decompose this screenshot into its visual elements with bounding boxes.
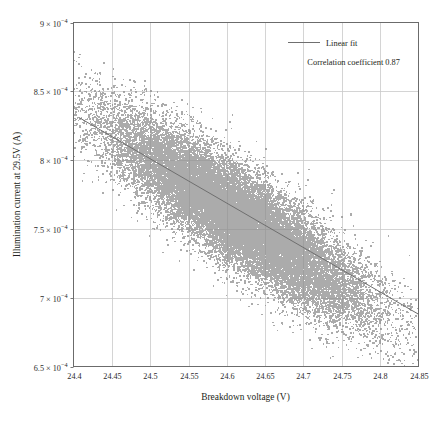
x-tick-label: 24.75: [333, 372, 351, 381]
x-tick-label: 24.4: [67, 372, 81, 381]
legend-label-linear-fit: Linear fit: [326, 39, 358, 48]
legend-correlation-annotation: Correlation coefficient 0.87: [307, 58, 400, 67]
chart-canvas: 24.424.4524.524.5524.624.6524.724.7524.8…: [0, 0, 440, 422]
scatter-plot-figure: 24.424.4524.524.5524.624.6524.724.7524.8…: [0, 0, 440, 422]
x-tick-label: 24.5: [143, 372, 157, 381]
x-tick-label: 24.65: [256, 372, 274, 381]
y-axis-title: Illumination current at 29.5V (A): [12, 132, 23, 257]
x-tick-label: 24.8: [373, 372, 387, 381]
x-tick-label: 24.7: [296, 372, 310, 381]
x-tick-label: 24.6: [220, 372, 234, 381]
x-tick-label: 24.45: [103, 372, 121, 381]
x-tick-label: 24.55: [180, 372, 198, 381]
x-axis-title: Breakdown voltage (V): [201, 392, 290, 403]
x-tick-label: 24.85: [410, 372, 428, 381]
